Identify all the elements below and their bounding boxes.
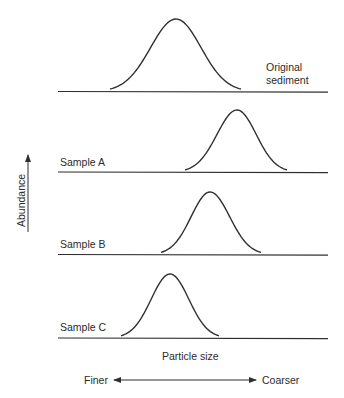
direction-label-coarser: Coarser [262, 374, 299, 386]
baseline-sample-a [58, 172, 328, 173]
baseline-original [58, 92, 328, 93]
label-sample-c: Sample C [60, 321, 106, 333]
distribution-curve-sample-c [121, 274, 219, 336]
distribution-curve-original [110, 19, 241, 89]
label-original-line1: Original [266, 61, 302, 73]
label-sample-b: Sample B [60, 238, 106, 250]
label-sample-a: Sample A [60, 156, 105, 168]
grain-size-distribution-diagram [0, 0, 344, 398]
distribution-curve-sample-b [161, 192, 261, 252]
x-axis-label-particle-size: Particle size [162, 350, 219, 362]
label-original-line2: sediment [266, 74, 309, 86]
baseline-sample-b [58, 255, 328, 256]
y-axis-label-abundance: Abundance [15, 174, 27, 227]
baseline-sample-c [58, 338, 328, 339]
distribution-curve-sample-a [185, 110, 287, 170]
direction-label-finer: Finer [84, 374, 108, 386]
